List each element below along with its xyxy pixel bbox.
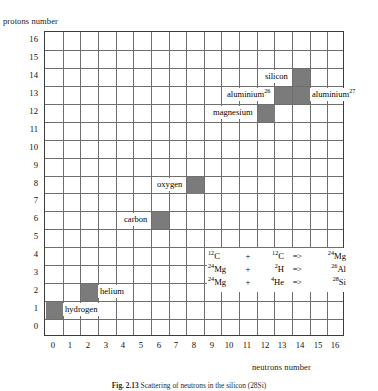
reactant-2: 2H: [254, 263, 284, 276]
product: 28Si: [310, 276, 346, 289]
y-tick-0: 0: [20, 321, 38, 331]
callout-label: carbon: [124, 214, 147, 224]
y-tick-11: 11: [20, 124, 38, 134]
x-tick-11: 11: [237, 340, 257, 350]
product: 26Al: [310, 263, 346, 276]
callout-mass-number: 27: [349, 87, 355, 94]
callout-aluminium-26: aluminium26: [225, 88, 272, 101]
cell-aluminium-27: [293, 87, 310, 104]
callout-label: aluminium: [227, 89, 264, 99]
callout-label: helium: [100, 286, 124, 296]
cell-carbon: [152, 212, 169, 229]
callout-label: silicon: [265, 71, 288, 81]
x-tick-1: 1: [60, 340, 80, 350]
caption-label: Fig. 2.13: [112, 381, 139, 390]
cell-hydrogen: [46, 302, 63, 319]
cell-aluminium-26: [275, 87, 292, 104]
callout-mass-number: 26: [264, 87, 270, 94]
callout-helium: helium: [98, 285, 126, 298]
reaction-equations: 12C+12C=>24Mg24Mg+2H=>26Al24Mg+4He=>28Si: [207, 248, 349, 292]
y-tick-14: 14: [20, 70, 38, 80]
callout-magnesium: magnesium: [211, 106, 255, 119]
callout-label: magnesium: [213, 107, 253, 117]
x-tick-7: 7: [166, 340, 186, 350]
y-tick-3: 3: [20, 267, 38, 277]
x-tick-16: 16: [325, 340, 345, 350]
y-tick-13: 13: [20, 88, 38, 98]
reaction-3: 24Mg+4He=>28Si: [208, 276, 348, 289]
y-tick-12: 12: [20, 106, 38, 116]
y-tick-6: 6: [20, 213, 38, 223]
callout-hydrogen: hydrogen: [63, 303, 99, 316]
plus-sign: +: [242, 250, 254, 263]
callout-oxygen: oxygen: [155, 178, 184, 191]
x-tick-8: 8: [184, 340, 204, 350]
callout-silicon: silicon: [263, 70, 290, 83]
reactant-2: 12C: [254, 250, 284, 263]
plus-sign: +: [242, 276, 254, 289]
x-tick-2: 2: [78, 340, 98, 350]
reaction-2: 24Mg+2H=>26Al: [208, 263, 348, 276]
callout-label: oxygen: [157, 179, 182, 189]
arrow-sign: =>: [284, 276, 310, 289]
cell-helium: [81, 284, 98, 301]
y-tick-1: 1: [20, 303, 38, 313]
figure-caption: Fig. 2.13 Scattering of neutrons in the …: [0, 381, 378, 390]
plus-sign: +: [242, 263, 254, 276]
y-tick-5: 5: [20, 231, 38, 241]
y-axis-title: protons number: [3, 16, 58, 26]
callout-label: aluminium: [312, 89, 349, 99]
x-tick-5: 5: [131, 340, 151, 350]
y-tick-2: 2: [20, 285, 38, 295]
reactant-1: 24Mg: [208, 263, 242, 276]
y-tick-7: 7: [20, 195, 38, 205]
reactant-1: 12C: [208, 250, 242, 263]
y-tick-9: 9: [20, 160, 38, 170]
y-tick-4: 4: [20, 249, 38, 259]
y-tick-8: 8: [20, 178, 38, 188]
caption-text: Scattering of neutrons in the silicon (2…: [139, 381, 266, 390]
x-tick-4: 4: [113, 340, 133, 350]
reaction-1: 12C+12C=>24Mg: [208, 250, 348, 263]
x-tick-13: 13: [272, 340, 292, 350]
x-tick-10: 10: [219, 340, 239, 350]
reactant-1: 24Mg: [208, 276, 242, 289]
callout-carbon: carbon: [122, 213, 149, 226]
callout-label: hydrogen: [65, 304, 97, 314]
x-tick-14: 14: [290, 340, 310, 350]
cell-magnesium: [258, 105, 275, 122]
y-tick-10: 10: [20, 142, 38, 152]
x-axis-title: neutrons number: [252, 362, 311, 372]
callout-aluminium-27: aluminium27: [310, 88, 357, 101]
figure-canvas: protons number hydrogenheliumcarbonoxyge…: [0, 0, 378, 391]
cell-oxygen: [187, 177, 204, 194]
y-tick-15: 15: [20, 52, 38, 62]
arrow-sign: =>: [284, 250, 310, 263]
arrow-sign: =>: [284, 263, 310, 276]
product: 24Mg: [310, 250, 346, 263]
cell-silicon: [293, 69, 310, 86]
reactant-2: 4He: [254, 276, 284, 289]
y-tick-16: 16: [20, 34, 38, 44]
